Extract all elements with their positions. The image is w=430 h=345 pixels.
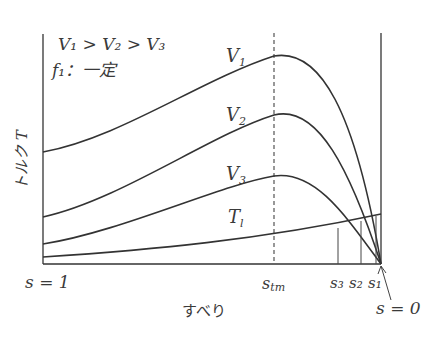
x-axis-label: すべり (182, 302, 226, 320)
curve-load-torque (43, 214, 381, 257)
label-v2: V2 (226, 104, 246, 128)
curve-v3 (43, 175, 381, 264)
tick-s-tm: stm (262, 274, 285, 294)
label-v1: V1 (226, 45, 246, 69)
tick-s3: s₃ (330, 274, 344, 292)
condition-frequency: f₁：一定 (50, 60, 118, 80)
torque-slip-diagram: V₁ > V₂ > V₃ f₁：一定 V1 V2 V3 Tl トルク T s =… (0, 0, 430, 345)
tick-s2: s₂ (349, 274, 363, 292)
tick-s1: s₁ (368, 274, 382, 292)
y-axis-label: トルク T (13, 129, 31, 190)
label-v3: V3 (226, 163, 246, 187)
label-load-torque: Tl (228, 206, 244, 230)
condition-voltage-order: V₁ > V₂ > V₃ (58, 34, 166, 54)
s-zero-arrow (381, 266, 391, 300)
tick-s-zero: s = 0 (376, 298, 421, 318)
tick-s-one: s = 1 (25, 272, 70, 292)
